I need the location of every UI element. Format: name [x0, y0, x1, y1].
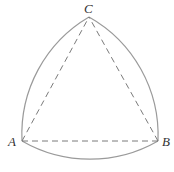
arc-ba	[22, 141, 158, 159]
reuleaux-triangle-diagram: C A B	[0, 0, 174, 172]
dashed-side-ac	[22, 17, 89, 141]
vertex-label-a: A	[7, 134, 16, 149]
vertex-label-b: B	[162, 134, 170, 149]
vertex-label-c: C	[84, 1, 93, 16]
dashed-side-bc	[89, 17, 158, 141]
